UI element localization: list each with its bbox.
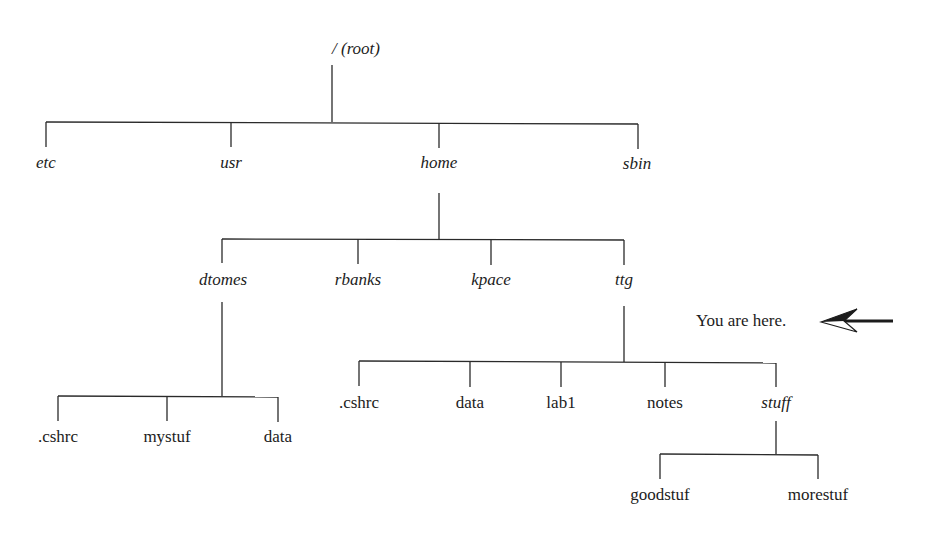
node-dtomes: dtomes bbox=[199, 270, 248, 289]
file-dtomes-data: data bbox=[264, 427, 293, 446]
left-arrow-icon bbox=[821, 309, 893, 332]
connector-stuff-bar bbox=[660, 454, 818, 455]
node-etc: etc bbox=[36, 153, 56, 172]
file-ttg-data: data bbox=[456, 393, 485, 412]
file-morestuf: morestuf bbox=[788, 485, 849, 504]
file-goodstuf: goodstuf bbox=[630, 485, 690, 504]
file-ttg-lab1: lab1 bbox=[546, 393, 575, 412]
node-home: home bbox=[421, 153, 458, 172]
file-dtomes-mystuf: mystuf bbox=[143, 427, 191, 446]
file-dtomes-cshrc: .cshrc bbox=[38, 427, 79, 446]
you-are-here-label: You are here. bbox=[696, 311, 786, 330]
node-stuff: stuff bbox=[761, 393, 793, 412]
node-kpace: kpace bbox=[471, 270, 511, 289]
connector-dtomes-bar bbox=[58, 396, 278, 397]
file-ttg-cshrc: .cshrc bbox=[339, 393, 380, 412]
connector-level1-bar bbox=[46, 122, 638, 124]
file-ttg-notes: notes bbox=[647, 393, 683, 412]
directory-tree-diagram: / (root) etc usr home sbin dtomes rbanks… bbox=[0, 0, 926, 533]
connector-home-bar bbox=[222, 239, 624, 240]
connector-ttg-bar bbox=[359, 361, 776, 363]
node-sbin: sbin bbox=[623, 154, 651, 173]
node-rbanks: rbanks bbox=[335, 270, 382, 289]
node-usr: usr bbox=[220, 153, 242, 172]
node-ttg: ttg bbox=[615, 270, 633, 289]
node-root: / (root) bbox=[331, 39, 380, 58]
